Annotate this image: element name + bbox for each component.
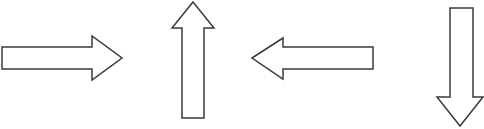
arrow-diagram-svg [0, 0, 484, 129]
diagram-canvas [0, 0, 484, 129]
